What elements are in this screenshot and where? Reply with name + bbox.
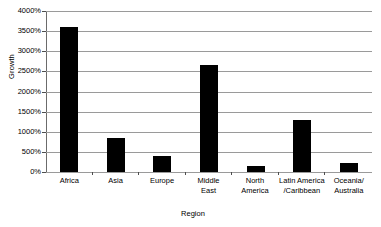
x-axis-category-label-line: Oceania/ [327, 176, 371, 186]
category-tick-slot [139, 172, 186, 175]
growth-by-region-bar-chart: Growth 0%500%1000%1500%2000%2500%3000%35… [0, 0, 381, 227]
bar-slot [139, 11, 186, 172]
bar [60, 27, 78, 172]
y-axis-tick-label: 4000% [3, 7, 41, 15]
bar-slot [93, 11, 140, 172]
y-axis-tick-label: 2500% [3, 67, 41, 75]
x-axis-category-label-line: North [233, 176, 277, 186]
y-axis-tick-labels: 0%500%1000%1500%2000%2500%3000%3500%4000… [0, 0, 41, 227]
y-axis-tick-label: 1000% [3, 128, 41, 136]
x-axis-category-label-line: /Caribbean [279, 186, 324, 196]
x-axis-category-label-line: Asia [93, 176, 137, 186]
bar-slot [186, 11, 233, 172]
x-axis-category-label-line: Latin America [279, 176, 324, 186]
category-tick-slot [93, 172, 140, 175]
category-tick-slot [232, 172, 279, 175]
x-axis-category-label: MiddleEast [185, 176, 231, 195]
x-axis-category-label: Europe [139, 176, 185, 195]
x-axis-category-label-line: Europe [140, 176, 184, 186]
x-axis-category-label: Africa [46, 176, 92, 195]
x-axis-category-labels: AfricaAsiaEuropeMiddleEastNorthAmericaLa… [46, 176, 372, 195]
bar-series [46, 11, 372, 172]
bar-slot [232, 11, 279, 172]
y-axis-tick-label: 1500% [3, 108, 41, 116]
x-axis-category-label: Oceania/Australia [326, 176, 372, 195]
category-tick-marks [46, 172, 372, 175]
y-axis-tick-label: 2000% [3, 88, 41, 96]
bar [293, 120, 311, 172]
x-axis-category-label-line: East [186, 186, 230, 196]
x-axis-category-label-line: Africa [47, 176, 91, 186]
bar [153, 156, 171, 172]
category-tick-slot [279, 172, 326, 175]
x-axis-title: Region [46, 209, 340, 218]
x-axis-category-label: Asia [92, 176, 138, 195]
category-tick-slot [186, 172, 233, 175]
bar-slot [46, 11, 93, 172]
bar [200, 65, 218, 172]
y-axis-tick-label: 0% [3, 168, 41, 176]
x-axis-category-label-line: Australia [327, 186, 371, 196]
y-axis-tick-label: 3500% [3, 27, 41, 35]
y-axis-tick-label: 3000% [3, 47, 41, 55]
bar-slot [325, 11, 372, 172]
bar [107, 138, 125, 172]
y-axis-tick-label: 500% [3, 148, 41, 156]
x-axis-category-label: Latin America/Caribbean [278, 176, 325, 195]
x-axis-category-label-line: Middle [186, 176, 230, 186]
category-tick-slot [325, 172, 372, 175]
x-axis-category-label: NorthAmerica [232, 176, 278, 195]
x-axis-category-label-line: America [233, 186, 277, 196]
bar-slot [279, 11, 326, 172]
category-tick-slot [46, 172, 93, 175]
bar [340, 163, 358, 172]
